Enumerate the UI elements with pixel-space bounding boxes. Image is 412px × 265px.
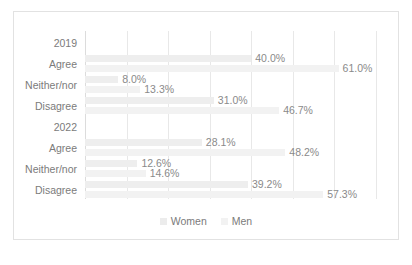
bar-women[interactable] <box>85 160 137 167</box>
bar-men[interactable] <box>85 65 339 72</box>
category-label: Disagree <box>35 184 77 196</box>
legend-swatch-women-icon <box>160 218 167 225</box>
data-label-women: 31.0% <box>218 94 248 106</box>
bar-women[interactable] <box>85 76 118 83</box>
legend-item-women[interactable]: Women <box>160 215 207 227</box>
chart-legend: Women Men <box>14 215 398 227</box>
category-label: Agree <box>49 58 77 70</box>
bar-men[interactable] <box>85 107 279 114</box>
data-label-women: 28.1% <box>206 136 236 148</box>
data-label-women: 39.2% <box>252 178 282 190</box>
bar-men[interactable] <box>85 86 140 93</box>
bar-women[interactable] <box>85 139 202 146</box>
bar-men[interactable] <box>85 149 285 156</box>
data-label-men: 57.3% <box>327 188 357 200</box>
legend-label-women: Women <box>171 215 207 227</box>
table-row: Disagree39.2%57.3% <box>85 178 376 202</box>
category-label: Agree <box>49 142 77 154</box>
bar-men[interactable] <box>85 191 323 198</box>
data-label-women: 8.0% <box>122 73 146 85</box>
bar-women[interactable] <box>85 181 248 188</box>
category-label: 2022 <box>54 121 77 133</box>
legend-label-men: Men <box>232 215 252 227</box>
chart-container: 2019Agree40.0%61.0%Neither/nor8.0%13.3%D… <box>13 11 399 240</box>
plot-area: 2019Agree40.0%61.0%Neither/nor8.0%13.3%D… <box>85 31 376 199</box>
gridline-70 <box>376 31 377 199</box>
bar-women[interactable] <box>85 55 251 62</box>
category-label: Neither/nor <box>25 163 77 175</box>
data-label-women: 40.0% <box>255 52 285 64</box>
legend-swatch-men-icon <box>221 218 228 225</box>
bar-women[interactable] <box>85 97 214 104</box>
category-label: Disagree <box>35 100 77 112</box>
legend-item-men[interactable]: Men <box>221 215 252 227</box>
bar-men[interactable] <box>85 170 146 177</box>
category-label: 2019 <box>54 37 77 49</box>
category-label: Neither/nor <box>25 79 77 91</box>
